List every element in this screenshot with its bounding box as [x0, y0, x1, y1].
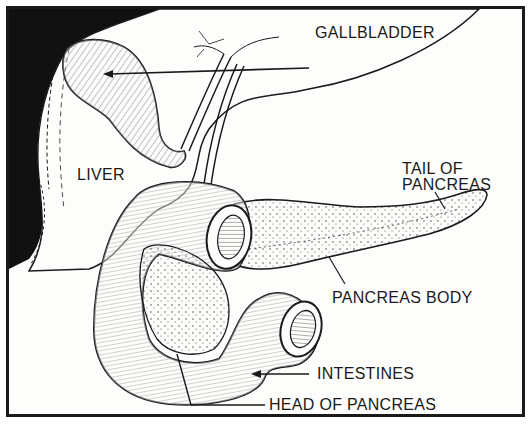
pancreas-illustration	[9, 9, 522, 414]
label-intestines: INTESTINES	[317, 365, 414, 383]
label-gallbladder: GALLBLADDER	[315, 24, 435, 42]
label-liver: LIVER	[77, 166, 125, 184]
label-pancreas-body: PANCREAS BODY	[332, 289, 473, 307]
label-tail-of-pancreas-line2: PANCREAS	[402, 176, 491, 194]
label-head-of-pancreas: HEAD OF PANCREAS	[269, 396, 436, 414]
diagram-frame: GALLBLADDER LIVER TAIL OF PANCREAS PANCR…	[6, 6, 525, 417]
pancreas-body-tail	[234, 190, 487, 270]
